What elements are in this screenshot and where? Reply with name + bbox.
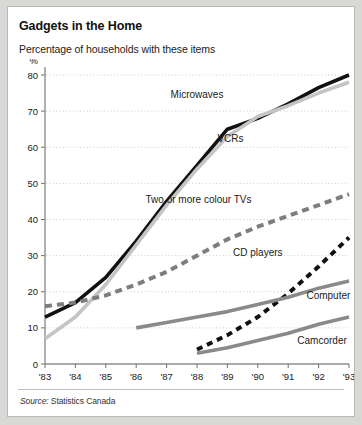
series-label-vcrs: VCRs — [217, 133, 243, 144]
series-label-computer: Computer — [306, 290, 351, 301]
y-tick-label: 0 — [33, 359, 38, 370]
x-tick-label: '88 — [191, 371, 203, 382]
x-tick-label: '92 — [312, 371, 324, 382]
y-tick-label: 10 — [27, 322, 38, 333]
y-axis-unit-label: % — [30, 59, 39, 66]
y-tick-label: 80 — [27, 70, 38, 81]
source-label: Source: — [20, 396, 49, 406]
page-title: Gadgets in the Home — [19, 19, 142, 33]
series-label-two-or-more-colour-tvs: Two or more colour TVs — [146, 194, 252, 205]
x-tick-label: '87 — [160, 371, 172, 382]
source-value: Statistics Canada — [49, 396, 116, 406]
x-tick-label: '83 — [39, 371, 51, 382]
series-line-computer — [136, 281, 349, 328]
x-tick-label: '84 — [69, 371, 81, 382]
y-tick-label: 20 — [27, 286, 38, 297]
x-tick-label: '93 — [343, 371, 355, 382]
y-axis: 01020304050607080 — [27, 67, 45, 370]
series-label-camcorder: Camcorder — [297, 335, 347, 346]
line-chart: 01020304050607080 '83'84'85'86'87'88'89'… — [8, 59, 355, 389]
y-tick-label: 30 — [27, 250, 38, 261]
y-tick-label: 50 — [27, 178, 38, 189]
x-tick-label: '85 — [100, 371, 112, 382]
source-note: Source: Statistics Canada — [20, 396, 115, 406]
series-label-cd-players: CD players — [233, 247, 282, 258]
x-axis: '83'84'85'86'87'88'89'90'91'92'93 — [39, 364, 355, 382]
y-axis-unit: % — [30, 59, 39, 66]
y-tick-label: 60 — [27, 142, 38, 153]
series-lines — [45, 75, 349, 353]
chart-figure-card: Gadgets in the Home Percentage of househ… — [7, 6, 355, 417]
chart-subtitle: Percentage of households with these item… — [19, 43, 215, 55]
series-label-microwaves: Microwaves — [171, 89, 224, 100]
x-tick-label: '90 — [252, 371, 264, 382]
x-tick-label: '91 — [282, 371, 294, 382]
footer-divider — [18, 389, 344, 390]
x-tick-label: '86 — [130, 371, 142, 382]
y-tick-label: 40 — [27, 214, 38, 225]
y-tick-label: 70 — [27, 106, 38, 117]
x-tick-label: '89 — [221, 371, 233, 382]
